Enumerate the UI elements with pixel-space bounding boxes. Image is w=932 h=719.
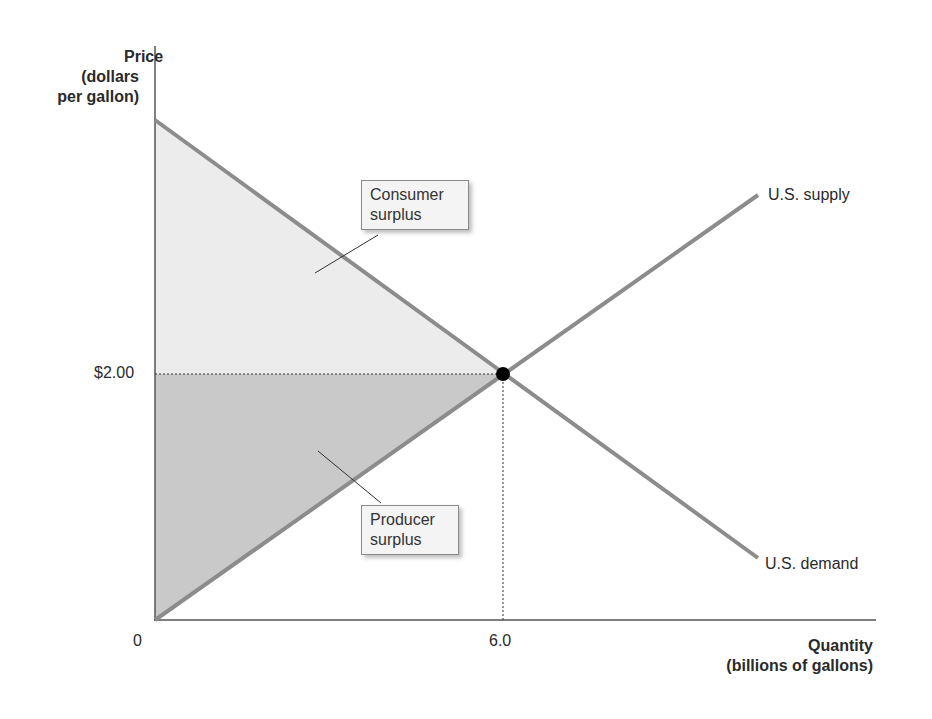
y-axis-title-line1: Price [124,48,163,66]
x-tick-label: 6.0 [489,632,511,650]
producer-surplus-text-1: Producer [370,510,450,530]
consumer-surplus-text-1: Consumer [370,185,460,205]
demand-label: U.S. demand [765,555,858,573]
y-tick-label: $2.00 [94,364,134,382]
consumer-surplus-text-2: surplus [370,205,460,225]
consumer-surplus-callout: Consumer surplus [361,180,469,230]
x-axis-title-line1: Quantity [808,637,873,655]
x-axis-title-line2: (billions of gallons) [726,657,873,675]
producer-surplus-text-2: surplus [370,530,450,550]
chart-canvas [0,0,932,719]
origin-label: 0 [133,632,142,650]
equilibrium-point [496,367,510,381]
y-axis-title-line2: (dollars [81,68,139,86]
supply-label: U.S. supply [768,186,850,204]
producer-surplus-callout: Producer surplus [361,505,459,555]
y-axis-title-line3: per gallon) [57,88,139,106]
